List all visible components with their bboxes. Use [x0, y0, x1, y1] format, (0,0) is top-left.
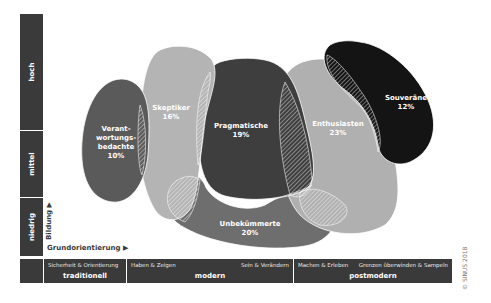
x-sub-label: Sicherheit & Orientierung — [48, 262, 118, 268]
label-skeptiker: Skeptiker 16% — [152, 104, 190, 122]
label-line: Pragmatische — [214, 122, 268, 131]
x-group-traditionell: Sicherheit & Orientierung traditionell — [44, 259, 126, 283]
label-unbekuemmerte: Unbekümmerte 20% — [220, 220, 281, 238]
label-enthusiasten: Enthusiasten 23% — [312, 120, 364, 138]
label-line: Skeptiker — [152, 104, 190, 113]
x-axis-corner — [20, 259, 43, 283]
x-group-label: traditionell — [44, 272, 126, 280]
label-share: 20% — [220, 229, 281, 238]
x-group-label: postmodern — [294, 272, 452, 280]
label-line: Unbekümmerte — [220, 220, 281, 229]
label-verantwortungsbedachte: Verant- wortungs- bedachte 10% — [96, 125, 136, 161]
x-group-label: modern — [127, 272, 293, 280]
label-line: Enthusiasten — [312, 120, 364, 129]
label-share: 19% — [214, 131, 268, 140]
label-share: 12% — [385, 103, 427, 112]
label-share: 10% — [96, 152, 136, 161]
x-group-postmodern: Machen & Erleben Grenzen überwinden & Sa… — [294, 259, 452, 283]
label-line: bedachte — [96, 143, 136, 152]
x-sub-label: Haben & Zeigen — [131, 262, 176, 268]
copyright: © SINUS 2018 — [461, 247, 468, 290]
label-line: Verant- — [96, 125, 136, 134]
label-line: Souveräne — [385, 94, 427, 103]
x-sub-label: Grenzen überwinden & Sampeln — [359, 262, 448, 268]
milieu-diagram — [0, 0, 491, 303]
x-sub-label: Machen & Erleben — [298, 262, 348, 268]
label-share: 16% — [152, 113, 190, 122]
label-share: 23% — [312, 129, 364, 138]
x-sub-label: Sein & Verändern — [241, 262, 289, 268]
label-pragmatische: Pragmatische 19% — [214, 122, 268, 140]
label-souveraene: Souveräne 12% — [385, 94, 427, 112]
label-line: wortungs- — [96, 134, 136, 143]
x-group-modern: Haben & Zeigen Sein & Verändern modern — [127, 259, 293, 283]
